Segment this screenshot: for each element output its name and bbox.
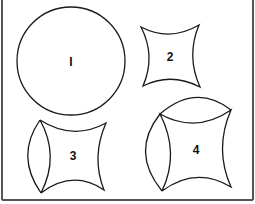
shape-3-left-lens bbox=[28, 120, 41, 193]
shape-3-concave-square-lens: 3 bbox=[28, 120, 106, 193]
shape-2-label: 2 bbox=[167, 50, 174, 64]
diagram-frame: I 2 3 4 bbox=[0, 0, 255, 204]
shape-4-top-lens bbox=[160, 97, 231, 114]
shape-4-label: 4 bbox=[193, 143, 200, 157]
shape-4-left-lens bbox=[145, 114, 162, 191]
shape-4-concave-square-lenses: 4 bbox=[145, 97, 231, 191]
shape-3-label: 3 bbox=[70, 149, 77, 163]
shape-1-label: I bbox=[69, 55, 72, 69]
frame-border bbox=[2, 0, 253, 200]
shape-2-concave-square: 2 bbox=[141, 25, 200, 87]
shape-1-circle: I bbox=[17, 7, 125, 115]
